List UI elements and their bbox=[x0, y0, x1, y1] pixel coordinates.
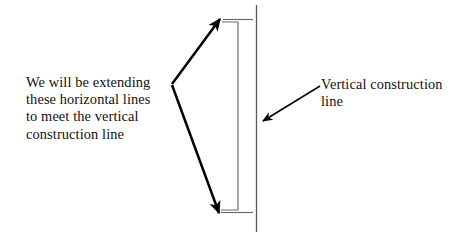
upper-leader-arrow bbox=[172, 19, 220, 84]
left-annotation-text: We will be extending these horizontal li… bbox=[26, 74, 151, 143]
construction-line-callout-arrow bbox=[263, 86, 320, 121]
right-annotation-line-1: Vertical construction bbox=[321, 76, 443, 93]
left-annotation-line-3: to meet the vertical bbox=[26, 108, 151, 125]
left-annotation-line-2: these horizontal lines bbox=[26, 91, 151, 108]
construction-bracket bbox=[221, 22, 238, 210]
right-annotation-text: Vertical construction line bbox=[321, 76, 443, 110]
diagram-canvas: We will be extending these horizontal li… bbox=[0, 0, 472, 238]
lower-leader-arrow bbox=[172, 85, 219, 213]
left-annotation-line-4: construction line bbox=[26, 126, 151, 143]
right-annotation-line-2: line bbox=[321, 93, 443, 110]
left-annotation-line-1: We will be extending bbox=[26, 74, 151, 91]
